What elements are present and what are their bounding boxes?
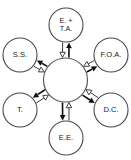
central-hub-node[interactable] <box>44 58 88 102</box>
arrow-outward-top-head <box>66 43 72 49</box>
arrow-inward-lower-left-shaft <box>36 98 44 103</box>
arrow-outward-upper-right-shaft <box>87 69 93 72</box>
satellite-node-upper-right[interactable]: F.O.A. <box>94 38 128 72</box>
arrow-inward-bottom-head <box>66 102 71 107</box>
arrow-outward-upper-left-shaft <box>42 63 48 66</box>
arrow-inward-lower-right-shaft <box>90 93 98 98</box>
hub-layer <box>44 58 88 102</box>
radial-hub-diagram: E. +T.A.F.O.A.D.C.E.E.T.S.S. <box>0 0 131 160</box>
arrow-inward-lower-right-head <box>86 90 92 95</box>
node-label-lower-left: T. <box>17 105 23 114</box>
arrow-inward-upper-left-shaft <box>34 66 40 69</box>
node-label-top-line2: T.A. <box>60 24 72 33</box>
arrow-outward-lower-right-shaft <box>83 95 90 100</box>
node-label-upper-right: F.O.A. <box>100 50 121 59</box>
arrow-outward-bottom-head <box>60 115 66 121</box>
connector-hub-to-lower-right[interactable] <box>83 90 99 103</box>
arrow-inward-lower-left-head <box>43 95 49 100</box>
arrow-inward-top-head <box>60 52 65 57</box>
node-label-upper-left: S.S. <box>13 50 27 59</box>
connector-hub-to-bottom[interactable] <box>60 102 72 120</box>
arrow-outward-lower-left-shaft <box>38 90 45 95</box>
satellite-node-lower-right[interactable]: D.C. <box>94 93 128 127</box>
satellite-node-top[interactable]: E. +T.A. <box>49 8 83 42</box>
node-label-bottom: E.E. <box>59 133 73 142</box>
node-label-lower-right: D.C. <box>103 105 118 114</box>
connector-hub-to-top[interactable] <box>60 42 72 57</box>
satellite-node-lower-left[interactable]: T. <box>3 93 37 127</box>
satellite-node-bottom[interactable]: E.E. <box>49 121 83 155</box>
diagram-canvas: E. +T.A.F.O.A.D.C.E.E.T.S.S. <box>0 0 131 160</box>
arrow-inward-upper-right-shaft <box>88 61 94 64</box>
arrow-inward-upper-right-head <box>84 61 90 66</box>
satellite-node-upper-left[interactable]: S.S. <box>3 38 37 72</box>
connector-hub-to-lower-left[interactable] <box>33 90 49 103</box>
arrow-inward-upper-left-head <box>38 67 44 72</box>
